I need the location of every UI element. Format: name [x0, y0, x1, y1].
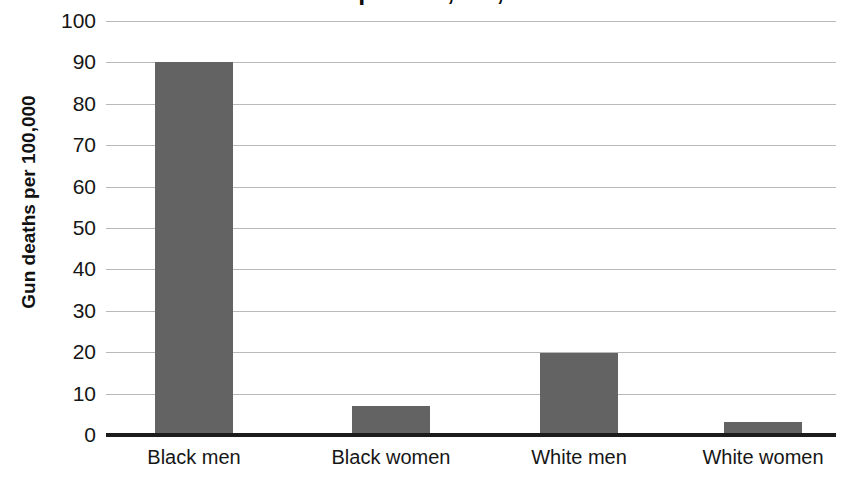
y-axis-tick-label: 50 — [10, 217, 96, 238]
x-axis-tick-label: White men — [488, 444, 671, 470]
bar — [155, 62, 233, 435]
y-axis-tick-label: 100 — [10, 10, 96, 31]
y-axis-tick-label: 20 — [10, 341, 96, 362]
y-axis-tick-label: 0 — [10, 424, 96, 445]
y-axis-tick-label: 80 — [10, 93, 96, 114]
y-axis-tick-label: 10 — [10, 383, 96, 404]
x-axis-baseline — [106, 433, 836, 437]
x-axis-tick-label: White women — [672, 444, 844, 470]
y-axis-tick-label: 30 — [10, 300, 96, 321]
bars-layer — [106, 21, 836, 435]
x-axis-tick-labels: Black menBlack womenWhite menWhite women — [106, 444, 836, 474]
y-axis-tick-label: 40 — [10, 258, 96, 279]
y-axis-tick-label: 90 — [10, 51, 96, 72]
bar-chart: Gun deaths per 100,000, 2012-2014 Gun de… — [0, 0, 844, 481]
bar — [352, 406, 430, 435]
y-axis-tick-label: 70 — [10, 134, 96, 155]
bar — [540, 353, 618, 435]
x-axis-tick-label: Black women — [300, 444, 483, 470]
chart-title: Gun deaths per 100,000, 2012-2014 — [0, 0, 844, 8]
x-axis-tick-label: Black men — [103, 444, 286, 470]
y-axis-tick-label: 60 — [10, 176, 96, 197]
y-axis-tick-labels: 1009080706050403020100 — [0, 0, 96, 460]
